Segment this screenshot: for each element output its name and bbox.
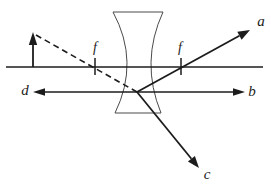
arrowheads bbox=[29, 30, 250, 168]
object-arrowhead-icon bbox=[29, 32, 37, 45]
ray-c-label: c bbox=[204, 166, 211, 182]
ray-b-arrowhead-icon bbox=[233, 88, 245, 96]
focal-label-right: f bbox=[178, 40, 184, 55]
focal-label-left: f bbox=[93, 40, 99, 55]
ray-d-label: d bbox=[21, 82, 29, 98]
ray-c-shaft bbox=[137, 92, 191, 159]
ray-diagram: f f a b c d bbox=[0, 0, 271, 192]
diverging-lens bbox=[113, 12, 163, 113]
ray-a-label: a bbox=[257, 13, 265, 29]
incident-ray-dashed bbox=[36, 35, 137, 92]
ray-d-arrowhead-icon bbox=[33, 88, 45, 96]
ray-a-arrowhead-icon bbox=[237, 30, 250, 40]
diagram-lines bbox=[6, 35, 263, 159]
diagram-labels: f f a b c d bbox=[21, 13, 265, 182]
lens-outline bbox=[113, 12, 163, 113]
ray-diagram-canvas: f f a b c d bbox=[0, 0, 271, 192]
ray-b-label: b bbox=[248, 83, 256, 99]
